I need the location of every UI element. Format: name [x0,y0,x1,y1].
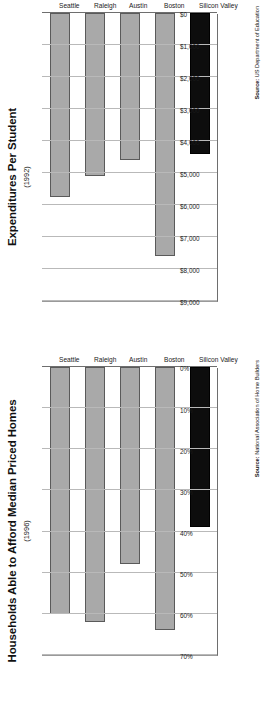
category-label-silicon-valley: Silicon Valley [199,2,238,9]
value-axis-tick-label: $3,000 [180,107,200,114]
bar-boston [155,13,175,256]
value-axis-tick-label: 20% [180,448,193,455]
category-label-boston: Boston [164,2,185,9]
category-label-seattle: Seattle [59,2,80,9]
bar-seattle [50,13,70,197]
value-axis-tick-label: $6,000 [180,203,200,210]
value-axis-tick-label: $8,000 [180,267,200,274]
category-label-austin: Austin [129,2,147,9]
source-label-top: Source: [254,79,260,100]
gridline [42,366,217,367]
page-root: Expenditures Per Student (1992) $9,000$8… [0,0,264,708]
category-label-silicon-valley: Silicon Valley [199,356,238,363]
bar-austin [120,367,140,564]
value-axis-tick-label: 10% [180,407,193,414]
category-label-boston: Boston [164,356,185,363]
value-axis-tick-label: $0 [180,11,187,18]
gridline [42,12,217,13]
chart-canvas-bottom: Households Able to Afford Median Priced … [0,354,264,708]
value-axis-tick-label: 0% [180,365,189,372]
value-axis-tick-label: 30% [180,489,193,496]
value-axis-tick-label: $2,000 [180,75,200,82]
value-axis-tick-label: 40% [180,530,193,537]
category-label-seattle: Seattle [59,356,80,363]
bar-seattle [50,367,70,614]
chart-subtitle-bottom: (1996) [22,354,31,708]
category-label-austin: Austin [129,356,147,363]
value-axis-tick-label: $7,000 [180,235,200,242]
chart-expenditures-per-student: Expenditures Per Student (1992) $9,000$8… [0,0,264,354]
chart-canvas-top: Expenditures Per Student (1992) $9,000$8… [0,0,264,354]
bar-raleigh [85,13,105,176]
chart-subtitle-top: (1992) [22,0,31,354]
plot-area-top [42,14,218,302]
bar-raleigh [85,367,105,622]
source-label-bottom: Source: [254,456,260,477]
chart-source-top: Source: US Department of Education [254,6,260,100]
value-axis-tick-label: 70% [180,653,193,660]
value-axis-tick-label: $1,000 [180,43,200,50]
chart-households-afford-median-homes: Households Able to Afford Median Priced … [0,354,264,708]
source-text-bottom: National Association of Home Builders [254,360,260,455]
bar-silicon-valley [190,13,210,154]
bar-series-top [42,14,217,301]
chart-title-bottom: Households Able to Afford Median Priced … [6,354,18,708]
value-axis-tick-label: $9,000 [180,299,200,306]
chart-source-bottom: Source: National Association of Home Bui… [254,360,260,477]
bar-silicon-valley [190,367,210,527]
value-axis-tick-label: 50% [180,571,193,578]
source-text-top: US Department of Education [254,6,260,77]
category-label-raleigh: Raleigh [94,2,116,9]
chart-title-top: Expenditures Per Student [6,0,18,354]
category-label-raleigh: Raleigh [94,356,116,363]
value-axis-tick-label: $4,000 [180,139,200,146]
bar-austin [120,13,140,160]
value-axis-tick-label: 60% [180,612,193,619]
value-axis-tick-label: $5,000 [180,171,200,178]
